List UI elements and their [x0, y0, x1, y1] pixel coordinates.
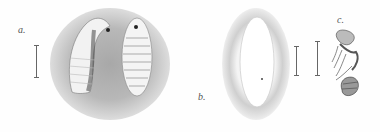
illustration-drawings [0, 0, 380, 132]
illustration-plate: a. b. c. [0, 0, 380, 132]
pupa-lateral-view [332, 30, 358, 96]
scale-bar-b [296, 46, 297, 76]
egg [240, 17, 274, 107]
label-c: c. [337, 14, 344, 25]
larva-side-view [69, 18, 110, 93]
scale-bar-c [317, 41, 318, 76]
label-a: a. [18, 24, 26, 35]
label-b: b. [198, 91, 206, 102]
larva-ventral-view [122, 18, 152, 96]
scale-bar-a [36, 45, 37, 78]
